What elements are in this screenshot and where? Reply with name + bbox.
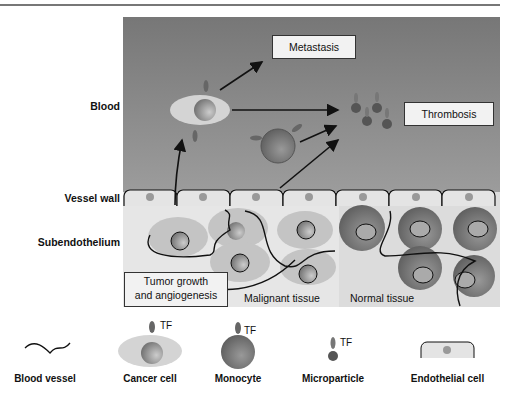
tf-label-microparticle: TF bbox=[340, 337, 352, 348]
tumor-line1: Tumor growth bbox=[125, 274, 227, 288]
metastasis-box: Metastasis bbox=[272, 35, 356, 59]
tumor-line2: and angiogenesis bbox=[125, 288, 227, 302]
tf-label-cancer: TF bbox=[160, 320, 172, 331]
label-vessel-wall: Vessel wall bbox=[20, 192, 120, 204]
legend-endothelial-cell: Endothelial cell bbox=[400, 373, 495, 384]
legend-microparticle: Microparticle bbox=[293, 373, 373, 384]
endothelial-layer bbox=[124, 190, 495, 206]
circulating-monocyte bbox=[261, 129, 295, 163]
normal-tissue-label: Normal tissue bbox=[350, 292, 414, 304]
legend-cancer-cell: Cancer cell bbox=[110, 373, 190, 384]
thrombosis-box: Thrombosis bbox=[404, 102, 494, 126]
label-subendothelium: Subendothelium bbox=[10, 236, 120, 248]
legend-monocyte: Monocyte bbox=[198, 373, 278, 384]
tumor-growth-box: Tumor growth and angiogenesis bbox=[124, 272, 228, 307]
label-blood: Blood bbox=[60, 100, 120, 112]
malignant-tissue-label: Malignant tissue bbox=[244, 292, 320, 304]
legend-blood-vessel: Blood vessel bbox=[5, 373, 85, 384]
tf-label-monocyte: TF bbox=[244, 325, 256, 336]
